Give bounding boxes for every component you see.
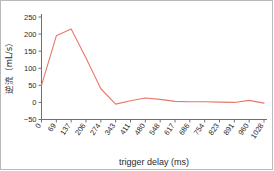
x-tick-label: 274 bbox=[88, 121, 103, 136]
x-tick-label: 206 bbox=[73, 121, 88, 136]
chart-figure: −50050100150200250 069137206274343411480… bbox=[0, 0, 274, 171]
x-tick-label: 617 bbox=[162, 121, 177, 136]
plot-axes bbox=[42, 14, 268, 120]
x-tick-label: 823 bbox=[207, 121, 222, 136]
x-tick-label: 686 bbox=[177, 121, 192, 136]
y-tick-label: 50 bbox=[28, 81, 36, 90]
y-axis-title: 逆流（mL/s） bbox=[4, 38, 14, 94]
x-tick-label: 891 bbox=[221, 121, 236, 136]
x-axis-title: trigger delay (ms) bbox=[119, 157, 189, 167]
x-tick-group: 0691372062743434114805486176867548238919… bbox=[33, 120, 265, 141]
x-tick-label: 754 bbox=[192, 121, 207, 136]
x-tick-label: 343 bbox=[103, 121, 118, 136]
y-tick-label: 0 bbox=[32, 98, 36, 107]
y-tick-group: −50050100150200250 bbox=[24, 13, 42, 125]
x-tick-label: 411 bbox=[118, 121, 132, 136]
x-tick-label: 0 bbox=[33, 121, 43, 130]
x-tick-label: 69 bbox=[46, 121, 58, 133]
x-tick-label: 548 bbox=[147, 121, 162, 136]
y-tick-label: 100 bbox=[24, 64, 37, 73]
x-tick-label: 480 bbox=[132, 121, 147, 136]
y-tick-label: 200 bbox=[24, 30, 37, 39]
y-tick-label: 150 bbox=[24, 47, 37, 56]
x-tick-label: 137 bbox=[58, 121, 73, 136]
x-tick-label: 1028 bbox=[249, 121, 266, 140]
y-tick-label: 250 bbox=[24, 13, 37, 22]
data-series-line bbox=[42, 29, 265, 104]
